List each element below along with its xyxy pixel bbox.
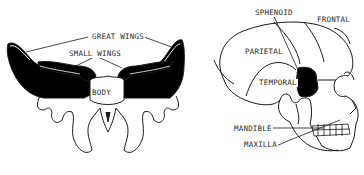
label-body: BODY xyxy=(91,89,112,97)
sphenoid-highlight xyxy=(297,67,318,96)
label-small-wings: SMALL WINGS xyxy=(68,50,122,58)
sphenoid-leader xyxy=(272,12,298,70)
sphenoid-bone-drawing xyxy=(0,0,364,175)
label-mandible: MANDIBLE xyxy=(233,125,273,133)
label-great-wings: GREAT WINGS xyxy=(91,33,145,41)
teeth xyxy=(312,124,350,136)
pterygoid-process-right xyxy=(116,96,179,152)
pterygoid-process-left xyxy=(37,96,100,152)
mandible-outline xyxy=(280,94,354,151)
label-parietal: PARIETAL xyxy=(244,48,284,56)
label-frontal: FRONTAL xyxy=(316,16,351,24)
cranium-outline xyxy=(220,22,353,80)
label-maxilla: MAXILLA xyxy=(243,141,278,149)
label-sphenoid: SPHENOID xyxy=(254,9,294,17)
label-temporal: TEMPORAL xyxy=(258,79,298,87)
